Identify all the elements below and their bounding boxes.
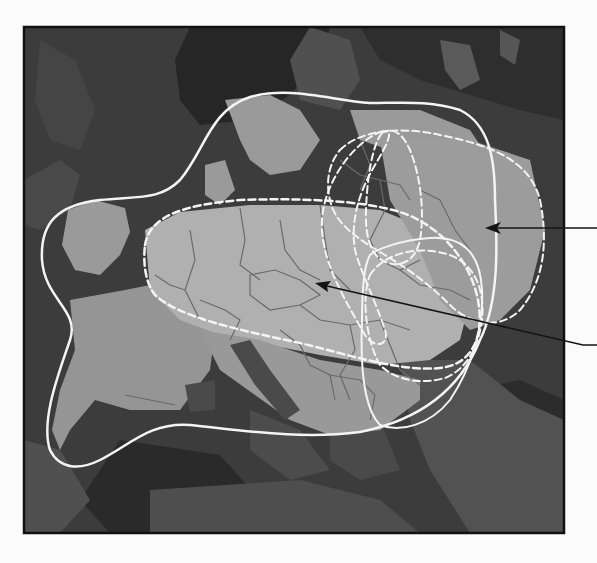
map-figure: Grayscale map of Europe with overlaid re… [0,0,597,563]
tyrrhenian-sea [185,380,215,412]
europe-map [0,0,597,563]
